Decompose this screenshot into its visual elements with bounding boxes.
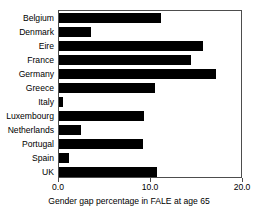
bar-luxembourg <box>59 111 144 121</box>
bar-portugal <box>59 139 143 149</box>
bar-germany <box>59 69 216 79</box>
category-label-denmark: Denmark <box>0 27 54 37</box>
category-label-france: France <box>0 55 54 65</box>
x-axis-title: Gender gap percentage in FALE at age 65 <box>0 196 258 207</box>
bar-netherlands <box>59 125 81 135</box>
bar-france <box>59 55 191 65</box>
category-label-eire: Eire <box>0 41 54 51</box>
bar-uk <box>59 167 157 177</box>
category-label-luxembourg: Luxembourg <box>0 111 54 121</box>
bar-denmark <box>59 27 91 37</box>
category-axis-labels: BelgiumDenmarkEireFranceGermanyGreeceIta… <box>0 10 56 178</box>
bar-belgium <box>59 13 161 23</box>
category-label-portugal: Portugal <box>0 139 54 149</box>
category-label-italy: Italy <box>0 97 54 107</box>
x-tick-label-2: 20.0 <box>222 182 258 193</box>
category-label-germany: Germany <box>0 69 54 79</box>
bar-spain <box>59 153 69 163</box>
category-label-greece: Greece <box>0 83 54 93</box>
x-tick-label-0: 0.0 <box>38 182 78 193</box>
category-label-netherlands: Netherlands <box>0 125 54 135</box>
category-label-uk: UK <box>0 167 54 177</box>
bar-eire <box>59 41 203 51</box>
bar-greece <box>59 83 155 93</box>
plot-area <box>58 10 242 178</box>
bars-container <box>59 11 243 179</box>
category-label-spain: Spain <box>0 153 54 163</box>
x-tick-label-1: 10.0 <box>130 182 170 193</box>
category-label-belgium: Belgium <box>0 13 54 23</box>
bar-italy <box>59 97 63 107</box>
bar-chart: BelgiumDenmarkEireFranceGermanyGreeceIta… <box>0 0 258 218</box>
